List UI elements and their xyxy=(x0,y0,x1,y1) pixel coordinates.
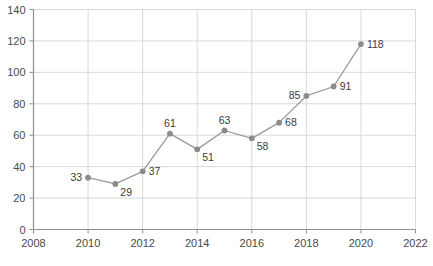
data-labels: 33293761516358688591118 xyxy=(70,38,383,198)
y-tick-label: 120 xyxy=(7,35,25,47)
y-tick-label: 100 xyxy=(7,66,25,78)
data-point-marker xyxy=(85,175,91,181)
data-point-label: 63 xyxy=(219,114,231,126)
data-point-marker xyxy=(249,135,255,141)
y-tick-label: 0 xyxy=(19,224,25,236)
x-axis-ticks: 20082010201220142016201820202022 xyxy=(21,230,427,249)
y-tick-label: 40 xyxy=(13,161,25,173)
data-point-marker xyxy=(194,146,200,152)
data-point-marker xyxy=(276,120,282,126)
y-tick-label: 140 xyxy=(7,4,25,16)
x-tick-label: 2008 xyxy=(21,237,45,249)
x-tick-label: 2018 xyxy=(294,237,318,249)
y-axis-ticks: 020406080100120140 xyxy=(7,4,33,236)
data-point-marker xyxy=(112,181,118,187)
data-point-label: 58 xyxy=(257,140,269,152)
data-point-marker xyxy=(222,128,228,134)
data-point-label: 61 xyxy=(164,117,176,129)
data-point-marker xyxy=(303,93,309,99)
data-point-marker xyxy=(167,131,173,137)
x-tick-label: 2022 xyxy=(403,237,427,249)
x-tick-label: 2020 xyxy=(349,237,373,249)
y-tick-label: 20 xyxy=(13,192,25,204)
data-point-label: 37 xyxy=(149,165,161,177)
y-tick-label: 80 xyxy=(13,98,25,110)
data-point-marker xyxy=(358,41,364,47)
data-point-label: 118 xyxy=(367,38,384,50)
x-tick-label: 2010 xyxy=(76,237,100,249)
chart-canvas: 020406080100120140 200820102012201420162… xyxy=(0,0,433,266)
data-point-label: 51 xyxy=(202,151,214,163)
y-tick-label: 60 xyxy=(13,129,25,141)
data-point-marker xyxy=(140,168,146,174)
data-point-label: 68 xyxy=(285,116,297,128)
data-point-label: 91 xyxy=(340,80,352,92)
x-tick-label: 2016 xyxy=(240,237,264,249)
data-point-label: 29 xyxy=(120,186,132,198)
data-point-marker xyxy=(331,84,337,90)
line-chart: 020406080100120140 200820102012201420162… xyxy=(0,0,433,266)
x-tick-label: 2012 xyxy=(130,237,154,249)
data-point-label: 33 xyxy=(70,171,82,183)
x-tick-label: 2014 xyxy=(185,237,209,249)
data-point-label: 85 xyxy=(289,89,301,101)
